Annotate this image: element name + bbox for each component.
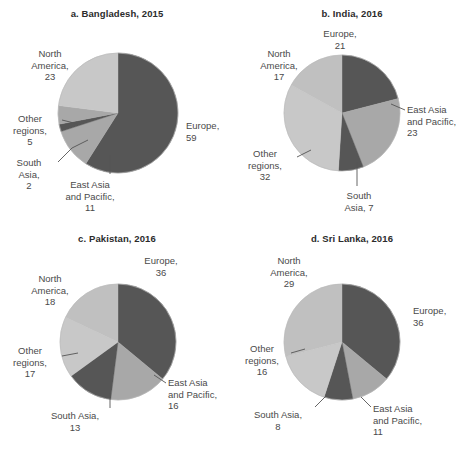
label-other-regions-d: Other regions, 16 (229, 343, 295, 378)
label-europe-b: Europe, 21 (305, 28, 375, 51)
label-north-america-a: North America, 23 (14, 48, 86, 83)
pie-chart-figure: a. Bangladesh, 2015 North America, 23 Ot… (0, 0, 469, 450)
label-north-america-c: North America, 18 (14, 273, 86, 308)
label-europe-c: Europe, 36 (128, 255, 194, 278)
label-north-america-d: North America, 29 (251, 255, 327, 290)
label-east-asia-and-pacific-a: East Asia and Pacific, 11 (50, 179, 130, 214)
label-south-asia-d: South Asia, 8 (239, 409, 317, 432)
label-europe-d: Europe, 36 (413, 305, 467, 328)
panel-india: b. India, 2016 Europe, 21 North America,… (235, 0, 469, 225)
panel-bangladesh: a. Bangladesh, 2015 North America, 23 Ot… (0, 0, 234, 225)
leader-line (315, 395, 327, 407)
label-east-asia-and-pacific-b: East Asia and Pacific, 23 (407, 104, 469, 139)
label-south-asia-b: South Asia, 7 (331, 190, 387, 213)
label-south-asia-a: South Asia, 2 (2, 157, 56, 192)
label-other-regions-c: Other regions, 17 (0, 345, 62, 380)
label-europe-a: Europe, 59 (186, 120, 238, 143)
panel-sri-lanka: d. Sri Lanka, 2016 North America, 29 Oth… (235, 225, 469, 450)
panel-pakistan: c. Pakistan, 2016 Europe, 36 North Ameri… (0, 225, 234, 450)
label-other-regions-b: Other regions, 32 (233, 148, 297, 183)
label-north-america-b: North America, 17 (243, 48, 315, 83)
label-south-asia-c: South Asia, 13 (36, 410, 114, 433)
label-east-asia-and-pacific-c: East Asia and Pacific, 16 (168, 377, 234, 412)
label-east-asia-and-pacific-d: East Asia and Pacific, 11 (373, 403, 451, 438)
leader-line (361, 397, 371, 407)
label-other-regions-a: Other regions, 5 (0, 113, 60, 148)
